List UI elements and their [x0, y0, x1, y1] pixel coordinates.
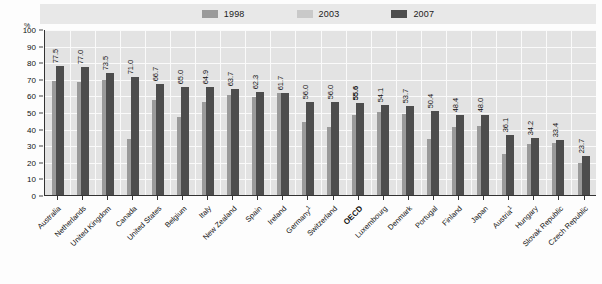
bar-value-label: 50.4: [426, 94, 435, 109]
bar-group: 77.0: [70, 30, 95, 195]
x-label-cell: Austria1: [496, 202, 521, 284]
bar-group: 63.7: [220, 30, 245, 195]
y-tick-label: 60: [14, 92, 36, 101]
x-tick-mark: [44, 196, 69, 201]
bar-value-label: 36.1: [501, 118, 510, 133]
x-label-cell: Canada: [119, 202, 144, 284]
bar-2007: 36.1: [506, 135, 514, 195]
x-tick-mark: [169, 196, 194, 201]
bar-series-container: 77.577.073.571.066.765.064.963.762.361.7…: [45, 30, 596, 195]
x-label-cell: Italy: [195, 202, 220, 284]
y-tick-mark: [39, 96, 43, 97]
bar-2007: 63.7: [231, 89, 239, 195]
bar-value-label: 73.5: [101, 56, 110, 71]
chart-legend: 199820032007: [40, 4, 596, 24]
chart-page: 199820032007 % 0102030405060708090100 77…: [0, 0, 602, 284]
bar-group: 56.0: [295, 30, 320, 195]
y-tick-label: 70: [14, 75, 36, 84]
bar-group: 48.4: [446, 30, 471, 195]
bar-2007: 48.4: [456, 115, 464, 195]
x-tick-mark: [395, 196, 420, 201]
x-label-cell: United States: [144, 202, 169, 284]
bar-2007: 53.7: [406, 106, 414, 195]
x-tick-mark: [320, 196, 345, 201]
x-axis-label: Spain: [244, 204, 264, 224]
bar-value-label: 66.7: [151, 67, 160, 82]
y-tick-label: 0: [14, 192, 36, 201]
y-tick-mark: [39, 162, 43, 163]
bar-value-label: 62.3: [251, 74, 260, 89]
x-label-cell: Spain: [245, 202, 270, 284]
x-label-cell: Ireland: [270, 202, 295, 284]
x-label-cell: Japan: [471, 202, 496, 284]
bar-group: 33.4: [546, 30, 571, 195]
bar-group: 56.0: [321, 30, 346, 195]
bar-group: 73.5: [95, 30, 120, 195]
legend-2003-label: 2003: [319, 9, 340, 19]
bar-2007: 23.7: [582, 156, 590, 195]
footnote-marker: 1: [506, 204, 513, 211]
bar-value-label: 64.9: [201, 70, 210, 85]
x-tick-mark: [270, 196, 295, 201]
plot-wrapper: 0102030405060708090100 77.577.073.571.06…: [14, 30, 596, 210]
x-tick-mark: [345, 196, 370, 201]
bar-group: 65.0: [170, 30, 195, 195]
bar-2007: 54.1: [381, 105, 389, 195]
bar-group: 64.9: [195, 30, 220, 195]
bar-2007: 77.5: [56, 66, 64, 195]
legend-2003: 2003: [297, 9, 340, 19]
bar-group: 34.2: [521, 30, 546, 195]
x-axis-label: Italy: [197, 204, 213, 220]
x-label-cell: Portugal: [420, 202, 445, 284]
y-tick-label: 40: [14, 125, 36, 134]
x-tick-mark: [220, 196, 245, 201]
x-label-cell: Germany1: [295, 202, 320, 284]
bar-value-label: 54.1: [376, 88, 385, 103]
x-label-cell: United Kingdom: [94, 202, 119, 284]
x-tick-mark: [420, 196, 445, 201]
legend-1998: 1998: [202, 9, 245, 19]
y-tick-mark: [39, 146, 43, 147]
bar-value-label: 55.6: [351, 85, 360, 100]
bar-group: 36.1: [496, 30, 521, 195]
bar-group: 55.6: [346, 30, 371, 195]
bar-2007: 64.9: [206, 87, 214, 195]
x-label-cell: Belgium: [169, 202, 194, 284]
bar-2007: 55.6: [356, 103, 364, 195]
bar-group: 54.1: [371, 30, 396, 195]
y-tick-mark: [39, 196, 43, 197]
legend-1998-label: 1998: [224, 9, 245, 19]
x-tick-mark: [245, 196, 270, 201]
bar-value-label: 56.0: [301, 85, 310, 100]
legend-2007-label: 2007: [413, 9, 434, 19]
plot-area: 77.577.073.571.066.765.064.963.762.361.7…: [44, 30, 596, 196]
bar-group: 53.7: [396, 30, 421, 195]
bar-group: 50.4: [421, 30, 446, 195]
x-tick-mark: [119, 196, 144, 201]
y-tick-mark: [39, 30, 43, 31]
bar-group: 62.3: [245, 30, 270, 195]
x-label-cell: Luxembourg: [370, 202, 395, 284]
y-tick-mark: [39, 63, 43, 64]
bar-value-label: 71.0: [126, 60, 135, 75]
y-tick-label: 50: [14, 109, 36, 118]
y-tick-label: 30: [14, 142, 36, 151]
x-label-cell: Czech Republic: [571, 202, 596, 284]
y-axis: 0102030405060708090100: [14, 30, 40, 196]
x-tick-mark: [521, 196, 546, 201]
bar-value-label: 65.0: [176, 70, 185, 85]
bar-value-label: 56.0: [326, 85, 335, 100]
bar-group: 66.7: [145, 30, 170, 195]
bar-value-label: 33.4: [551, 122, 560, 137]
x-label-cell: OECD: [345, 202, 370, 284]
bar-2007: 66.7: [156, 84, 164, 195]
x-axis-labels: AustraliaNetherlandsUnited KingdomCanada…: [44, 202, 596, 284]
bar-value-label: 77.0: [76, 50, 85, 65]
x-tick-mark: [370, 196, 395, 201]
bar-2007: 34.2: [531, 138, 539, 195]
bar-group: 71.0: [120, 30, 145, 195]
x-label-cell: Denmark: [395, 202, 420, 284]
x-label-cell: Switzerland: [320, 202, 345, 284]
y-tick-label: 10: [14, 175, 36, 184]
x-axis-label: Japan: [469, 204, 490, 225]
